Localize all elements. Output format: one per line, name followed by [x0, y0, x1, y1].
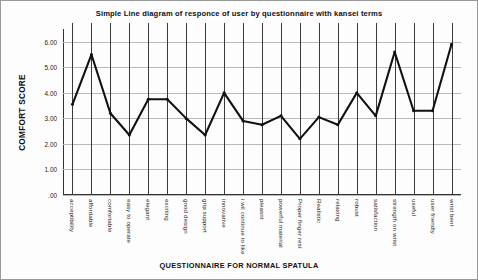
x-tick-label: exciting	[164, 199, 171, 221]
data-point	[317, 116, 320, 119]
y-tick-label: .00	[48, 192, 57, 199]
y-tick-label: 2.00	[45, 140, 57, 147]
data-point	[185, 117, 188, 120]
data-point	[355, 91, 358, 94]
plot-area: .001.002.003.004.005.006.00	[63, 29, 461, 195]
data-point	[412, 109, 415, 112]
y-axis-title-text: COMFORT SCORE	[18, 74, 27, 151]
data-point	[261, 123, 264, 126]
data-point	[204, 133, 207, 136]
x-tick-label: good design	[183, 199, 190, 234]
y-tick-label: 1.00	[45, 166, 57, 173]
x-tick-label: grip support	[202, 199, 209, 233]
x-tick-label: useful	[410, 199, 417, 216]
data-point	[298, 137, 301, 140]
y-tick-label: 4.00	[45, 89, 57, 96]
data-point	[109, 112, 112, 115]
data-point	[374, 114, 377, 117]
data-point	[393, 50, 396, 53]
x-tick-label: pleasnt	[259, 199, 266, 220]
x-tick-label: comfortable	[107, 199, 114, 232]
x-tick-label: i wil continue to like	[240, 199, 247, 255]
data-point	[147, 98, 150, 101]
x-tick-label: innovative	[221, 199, 228, 228]
y-tick-label: 3.00	[45, 115, 57, 122]
data-point	[71, 103, 74, 106]
data-point	[223, 91, 226, 94]
data-point	[336, 123, 339, 126]
x-tick-label: elegant	[145, 199, 152, 220]
y-axis-title: COMFORT SCORE	[15, 29, 29, 195]
x-tick-label: Proper finger rest	[296, 199, 303, 249]
x-tick-label: satisfaction	[372, 199, 379, 231]
data-point	[431, 109, 434, 112]
y-tick-label: 5.00	[45, 64, 57, 71]
data-point	[279, 114, 282, 117]
data-point	[90, 53, 93, 56]
gridline-horizontal	[63, 195, 461, 196]
x-tick-label: relaxing	[334, 199, 341, 221]
x-tick-label: affordable	[88, 199, 95, 227]
chart-title: Simple Line diagram of responce of user …	[1, 9, 477, 18]
x-tick-label: wrist bent	[448, 199, 455, 226]
x-tick-label: robust	[353, 199, 360, 217]
data-point	[450, 43, 453, 46]
chart-figure: Simple Line diagram of responce of user …	[0, 0, 478, 280]
x-tick-label: user friendly	[429, 199, 436, 234]
data-point	[128, 133, 131, 136]
x-tick-labels: acceptibilityaffordablecomfortableeasy t…	[63, 199, 461, 255]
data-point	[242, 119, 245, 122]
data-point	[166, 98, 169, 101]
x-tick-label: powerful material	[277, 199, 284, 248]
x-axis-title: QUESTIONNAIRE FOR NORMAL SPATULA	[1, 261, 477, 270]
y-tick-label: 6.00	[45, 38, 57, 45]
line-series	[63, 29, 461, 195]
x-tick-label: easy to operate	[126, 199, 133, 243]
x-tick-label: acceptibility	[69, 199, 76, 232]
x-tick-label: Realistic	[315, 199, 322, 223]
x-tick-label: strength on wrist	[391, 199, 398, 246]
